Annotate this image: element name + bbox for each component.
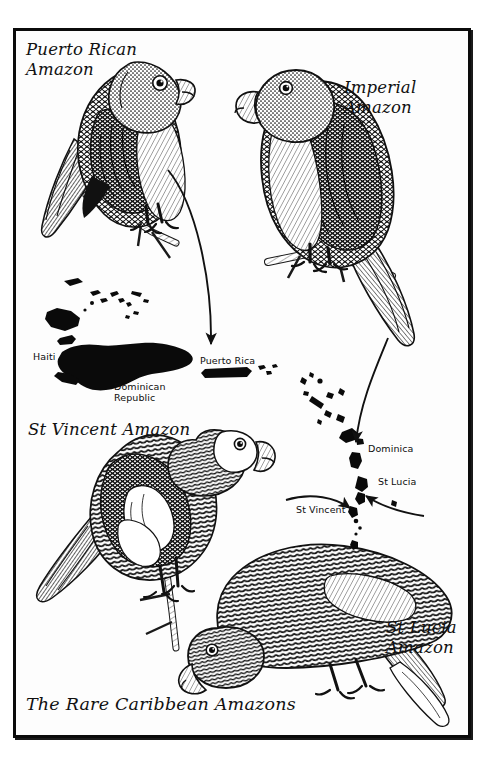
illustration-plate: Puerto Rican Amazon Imperial Amazon St V… [0, 0, 486, 782]
map-label-haiti: Haiti [33, 352, 55, 363]
label-st-vincent-amazon: St Vincent Amazon [28, 420, 190, 440]
map-label-st-vincent: St Vincent [296, 505, 346, 516]
plate-title: The Rare Caribbean Amazons [26, 694, 296, 715]
label-imperial-amazon: Imperial Amazon [344, 78, 486, 118]
label-st-lucia-amazon: St Lucia Amazon [386, 618, 457, 658]
map-label-st-lucia: St Lucia [378, 477, 416, 488]
map-label-dominican-republic: Dominican Republic [114, 382, 166, 403]
map-label-puerto-rica: Puerto Rica [200, 356, 255, 367]
label-puerto-rican-amazon: Puerto Rican Amazon [26, 40, 137, 80]
map-label-dominica: Dominica [368, 444, 414, 455]
